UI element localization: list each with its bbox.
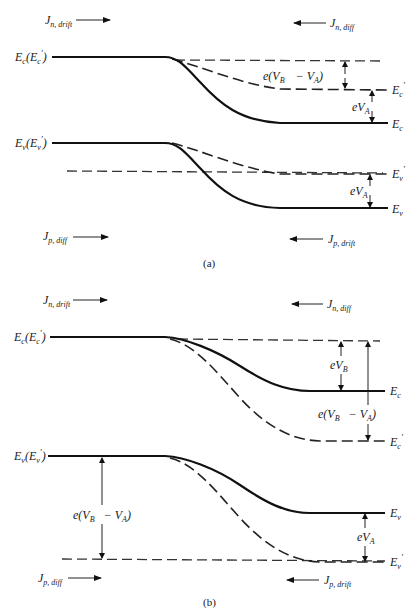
ev-prime-band-line bbox=[170, 458, 385, 562]
ev-band-line bbox=[48, 456, 385, 513]
current-n-drift-b: Jn, drift bbox=[43, 293, 107, 309]
ev-reference-dashed-line bbox=[67, 171, 383, 173]
panel-b: Jn, drift Jn, diff Ec(Ec′) Ev(Ev′) Ec Ec… bbox=[13, 293, 404, 609]
svg-text:eVB: eVB bbox=[330, 358, 348, 374]
svg-text:e(VB − VA): e(VB − VA) bbox=[73, 508, 131, 524]
label-ec-left-b: Ec(Ec′) bbox=[13, 328, 46, 346]
ev-prime-band-line bbox=[172, 143, 388, 174]
label-ev-right-b: Ev bbox=[389, 506, 401, 522]
panel-caption-b: (b) bbox=[203, 596, 216, 609]
annotation-e-vb-minus-va-a: e(VB − VA) bbox=[263, 62, 345, 88]
annotation-evb-b: eVB bbox=[330, 342, 348, 390]
svg-text:Jp, diff: Jp, diff bbox=[38, 571, 64, 587]
current-n-diff-b: Jn, diff bbox=[292, 297, 353, 313]
ev-reference-dashed-line bbox=[62, 559, 385, 561]
svg-text:Jn, diff: Jn, diff bbox=[330, 16, 356, 32]
svg-text:eVA: eVA bbox=[357, 530, 375, 546]
current-p-diff-a: Jp, diff bbox=[43, 229, 108, 245]
label-ec-left-a: Ec(Ec′) bbox=[14, 48, 47, 66]
svg-text:Jn, drift: Jn, drift bbox=[43, 293, 71, 309]
current-p-diff-b: Jp, diff bbox=[38, 571, 101, 587]
current-n-diff-a: Jn, diff bbox=[294, 16, 356, 32]
current-n-drift-a: Jn, drift bbox=[45, 13, 110, 29]
svg-text:e(VB − VA): e(VB − VA) bbox=[263, 69, 323, 85]
label-ec-right-a: Ec bbox=[391, 117, 403, 133]
ec-equilibrium-reference-line bbox=[178, 339, 380, 341]
panel-a: Jn, drift Jn, diff Ec(Ec′) Ev(Ev′) Ec′ E… bbox=[14, 13, 406, 270]
svg-text:Jn, drift: Jn, drift bbox=[45, 13, 73, 29]
current-p-drift-b: Jp, drift bbox=[287, 573, 352, 589]
label-ec-prime-right-b: Ec′ bbox=[389, 432, 404, 451]
svg-text:eVA: eVA bbox=[352, 100, 370, 116]
ev-band-line bbox=[52, 143, 388, 208]
label-ev-prime-right-a: Ev′ bbox=[391, 164, 406, 183]
label-ev-prime-right-b: Ev′ bbox=[389, 552, 404, 571]
svg-text:Jp, drift: Jp, drift bbox=[328, 232, 356, 248]
panel-caption-a: (a) bbox=[203, 257, 216, 270]
label-ec-prime-right-a: Ec′ bbox=[391, 80, 406, 99]
svg-text:Jp, drift: Jp, drift bbox=[324, 573, 352, 589]
band-diagram-figure: Jn, drift Jn, diff Ec(Ec′) Ev(Ev′) Ec′ E… bbox=[0, 0, 418, 614]
label-ec-right-b: Ec bbox=[389, 384, 401, 400]
annotation-eva-conduction-a: eVA bbox=[352, 91, 372, 122]
annotation-eva-valence-a: eVA bbox=[350, 175, 370, 207]
label-ev-right-a: Ev bbox=[391, 202, 403, 218]
ec-equilibrium-reference-line bbox=[175, 60, 383, 61]
annotation-e-vb-minus-va-valence-b: e(VB − VA) bbox=[73, 458, 131, 558]
label-ev-left-b: Ev(Ev′) bbox=[13, 447, 46, 465]
svg-text:Jp, diff: Jp, diff bbox=[43, 229, 69, 245]
svg-text:Jn, diff: Jn, diff bbox=[327, 297, 353, 313]
label-ev-left-a: Ev(Ev′) bbox=[14, 134, 47, 152]
svg-text:e(VB − VA): e(VB − VA) bbox=[318, 407, 376, 423]
svg-text:eVA: eVA bbox=[350, 184, 368, 200]
current-p-drift-a: Jp, drift bbox=[290, 232, 356, 248]
annotation-eva-valence-b: eVA bbox=[357, 514, 375, 561]
